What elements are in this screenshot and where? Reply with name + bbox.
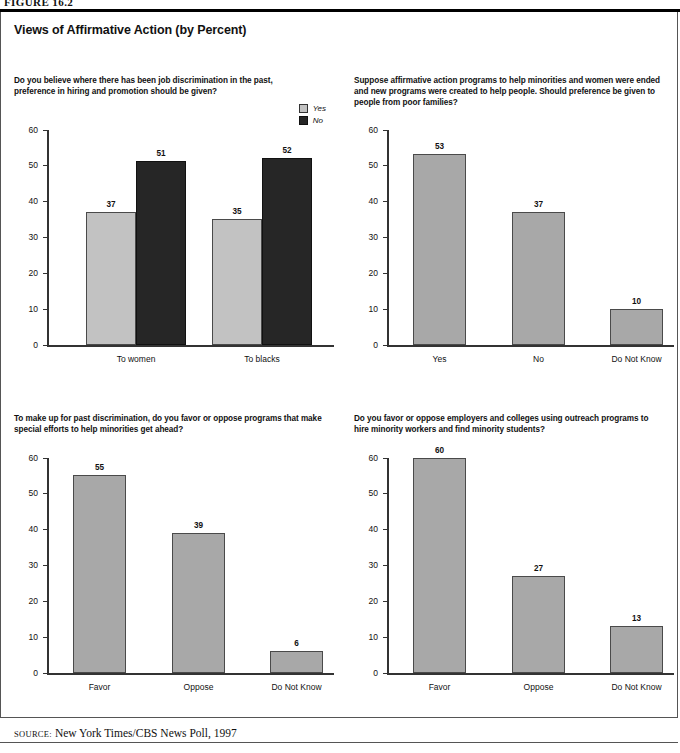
y-tick — [43, 309, 47, 310]
x-tick-label-do-not-know: Do Not Know — [600, 355, 673, 364]
y-tick — [43, 458, 47, 459]
x-tick-label-to-women: To women — [86, 355, 186, 364]
x-tick-label-favor: Favor — [63, 683, 136, 692]
chart-panel-special-efforts: To make up for past discrimination, do y… — [14, 414, 334, 704]
y-tick-label: 0 — [16, 669, 38, 678]
bar-oppose — [172, 533, 225, 673]
x-tick-label-yes: Yes — [403, 355, 476, 364]
y-tick-label: 40 — [16, 197, 38, 206]
y-tick — [383, 458, 387, 459]
x-tick-label-do-not-know: Do Not Know — [260, 683, 333, 692]
legend-label-yes: Yes — [313, 104, 326, 113]
y-tick-label: 20 — [16, 597, 38, 606]
y-tick-label: 30 — [16, 233, 38, 242]
bar-favor — [73, 475, 126, 673]
legend-label-no: No — [313, 116, 323, 125]
y-tick-label: 60 — [356, 126, 378, 135]
x-tick-label-oppose: Oppose — [162, 683, 235, 692]
chart-question-3: To make up for past discrimination, do y… — [14, 414, 324, 436]
bar-do-not-know — [270, 651, 323, 673]
bar-value-no: 37 — [512, 201, 565, 209]
bar-no-to-women — [136, 161, 186, 345]
bar-no-to-blacks — [262, 158, 312, 345]
y-tick-label: 10 — [356, 305, 378, 314]
y-tick — [383, 237, 387, 238]
bar-value-yes-to-blacks: 35 — [212, 208, 262, 216]
plot-area-2: 0 10 20 30 40 50 60 53 Yes 37 No 10 Do N… — [387, 130, 674, 346]
y-axis-4 — [387, 458, 389, 674]
legend-item-no: No — [299, 116, 326, 125]
y-tick — [383, 493, 387, 494]
y-tick — [43, 237, 47, 238]
y-axis-1 — [47, 130, 49, 346]
y-tick-label: 30 — [16, 561, 38, 570]
plot-area-4: 0 10 20 30 40 50 60 60 Favor 27 Oppose 1… — [387, 458, 674, 674]
x-tick-label-do-not-know: Do Not Know — [600, 683, 673, 692]
bar-value-oppose: 27 — [512, 565, 565, 573]
y-tick — [43, 529, 47, 530]
y-tick — [43, 165, 47, 166]
source-label: SOURCE: — [14, 729, 52, 739]
y-tick-label: 50 — [356, 161, 378, 170]
bar-oppose — [512, 576, 565, 673]
source-note: SOURCE: New York Times/CBS News Poll, 19… — [14, 727, 237, 739]
y-tick — [43, 201, 47, 202]
y-tick-label: 60 — [16, 454, 38, 463]
y-tick — [383, 165, 387, 166]
y-tick — [43, 565, 47, 566]
y-tick — [43, 637, 47, 638]
bar-yes-to-blacks — [212, 219, 262, 345]
x-tick-label-oppose: Oppose — [502, 683, 575, 692]
y-tick — [383, 673, 387, 674]
y-tick-label: 50 — [356, 489, 378, 498]
bar-value-yes: 53 — [413, 143, 466, 151]
y-tick — [383, 201, 387, 202]
chart-legend-1: Yes No — [299, 104, 326, 128]
figure-label: FIGURE 16.2 — [4, 0, 73, 8]
bar-value-do-not-know: 13 — [610, 615, 663, 623]
y-tick — [383, 345, 387, 346]
bar-value-yes-to-women: 37 — [86, 201, 136, 209]
x-tick-label-to-blacks: To blacks — [212, 355, 312, 364]
source-text: New York Times/CBS News Poll, 1997 — [55, 727, 237, 739]
bar-do-not-know — [610, 309, 663, 345]
bar-yes — [413, 154, 466, 345]
y-tick — [43, 493, 47, 494]
y-axis-3 — [47, 458, 49, 674]
x-axis-2 — [387, 345, 674, 347]
x-axis-4 — [387, 673, 674, 675]
page-title: Views of Affirmative Action (by Percent) — [14, 23, 246, 37]
y-tick — [383, 309, 387, 310]
bar-yes-to-women — [86, 212, 136, 345]
y-tick-label: 20 — [356, 269, 378, 278]
y-tick-label: 0 — [356, 669, 378, 678]
x-axis-1 — [47, 345, 334, 347]
y-tick-label: 10 — [16, 305, 38, 314]
y-tick-label: 60 — [356, 454, 378, 463]
bar-value-favor: 60 — [413, 447, 466, 455]
plot-area-3: 0 10 20 30 40 50 60 55 Favor 39 Oppose 6… — [47, 458, 334, 674]
y-tick-label: 10 — [356, 633, 378, 642]
y-tick-label: 10 — [16, 633, 38, 642]
y-tick-label: 0 — [356, 341, 378, 350]
bar-favor — [413, 458, 466, 673]
y-tick-label: 40 — [16, 525, 38, 534]
y-tick-label: 40 — [356, 197, 378, 206]
chart-question-4: Do you favor or oppose employers and col… — [354, 414, 664, 436]
y-tick-label: 0 — [16, 341, 38, 350]
chart-question-2: Suppose affirmative action programs to h… — [354, 76, 664, 108]
y-tick — [383, 529, 387, 530]
y-tick-label: 60 — [16, 126, 38, 135]
y-tick — [383, 637, 387, 638]
y-tick — [383, 273, 387, 274]
y-tick-label: 30 — [356, 233, 378, 242]
legend-swatch-yes-icon — [299, 104, 308, 113]
bar-value-do-not-know: 10 — [610, 298, 663, 306]
bar-value-no-to-women: 51 — [136, 150, 186, 158]
chart-panel-outreach: Do you favor or oppose employers and col… — [354, 414, 674, 704]
x-axis-3 — [47, 673, 334, 675]
y-tick — [383, 601, 387, 602]
bar-do-not-know — [610, 626, 663, 673]
y-tick — [383, 565, 387, 566]
y-tick-label: 40 — [356, 525, 378, 534]
